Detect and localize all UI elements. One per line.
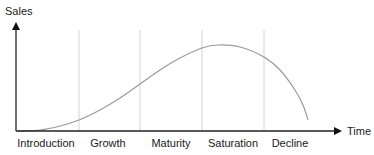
stage-label-decline: Decline (272, 138, 309, 149)
x-axis-label: Time (347, 126, 371, 137)
stage-label-introduction: Introduction (17, 138, 74, 149)
x-axis-arrow-icon (334, 127, 342, 135)
stage-label-saturation: Saturation (208, 138, 258, 149)
diagram-canvas (0, 0, 374, 155)
y-axis-arrow-icon (12, 22, 20, 30)
y-axis-label: Sales (5, 6, 33, 17)
stage-dividers (79, 30, 264, 131)
stage-label-growth: Growth (90, 138, 125, 149)
stage-label-maturity: Maturity (151, 138, 190, 149)
product-life-cycle-diagram: Sales Time Introduction Growth Maturity … (0, 0, 374, 155)
